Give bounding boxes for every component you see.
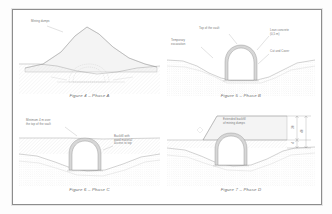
dimension-inner: 30 [291, 125, 295, 128]
dimension-outer: 40 [300, 129, 304, 132]
minimum-cover-label: Minimum 4 m over the top of the vault [26, 119, 51, 126]
figure-4-caption: Figure 4 – Phase A [17, 93, 162, 98]
vault-interior [228, 48, 254, 80]
drawing-sheet: Mining dumps Figure 4 – Phase A [12, 9, 322, 205]
vault-interior [218, 136, 244, 165]
lean-concrete-label: Lean concrete (0,5 m) [270, 29, 289, 36]
mining-dumps-label: Mining dumps [31, 20, 50, 24]
temporary-excavation-label: Temporary excavation [171, 39, 185, 46]
backfill-label: Backfill with good material access to to… [114, 135, 132, 146]
figure-6-caption: Figure 6 – Phase C [17, 187, 162, 192]
top-of-vault-label: Top of the vault [199, 27, 219, 31]
cut-and-cover-label: Cut and Cover [270, 50, 289, 54]
extended-backfill-label: Extended backfill of mining dumps [223, 118, 246, 125]
figure-5-caption: Figure 5 – Phase B [165, 93, 317, 98]
figure-6: Minimum 4 m over the top of the vault Ba… [17, 108, 162, 200]
dimension-lower: 4 [291, 142, 295, 144]
figure-7-caption: Figure 7 – Phase D [165, 187, 317, 192]
figure-4: Mining dumps Figure 4 – Phase A [17, 14, 162, 106]
vault-interior [72, 141, 98, 170]
figure-7: Extended backfill of mining dumps 30 40 … [165, 108, 317, 200]
figure-5: Top of the vault Temporary excavation Le… [165, 14, 317, 106]
document-page: Mining dumps Figure 4 – Phase A [0, 0, 332, 214]
